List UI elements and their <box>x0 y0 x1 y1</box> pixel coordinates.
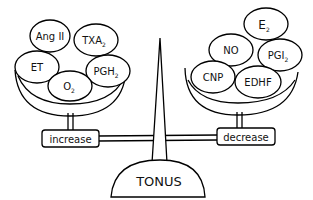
balance-needle <box>152 38 167 163</box>
factor-pgh2: PGH2 <box>86 55 130 87</box>
svg-text:ET: ET <box>31 62 44 73</box>
tonus-base: TONUS <box>111 160 205 197</box>
factor-o2: O2 <box>48 71 92 101</box>
factor-txa2: TXA2 <box>74 24 118 56</box>
factor-cnp: CNP <box>191 61 235 93</box>
factor-edhf: EDHF <box>235 66 281 98</box>
svg-text:NO: NO <box>223 45 238 56</box>
balance-diagram: TONUS increase decrease Ang II TXA2 ET <box>0 0 313 200</box>
increase-label: increase <box>49 134 91 145</box>
factor-ang-ii: Ang II <box>30 20 70 52</box>
right-pan: E2 NO PGI2 CNP EDHF <box>185 8 302 115</box>
factor-e2: E2 <box>244 8 288 40</box>
tonus-label: TONUS <box>135 174 182 189</box>
svg-text:CNP: CNP <box>203 72 224 83</box>
increase-box: increase <box>42 130 99 147</box>
svg-text:EDHF: EDHF <box>244 77 272 88</box>
decrease-box: decrease <box>217 128 275 145</box>
decrease-label: decrease <box>223 132 269 143</box>
svg-text:Ang II: Ang II <box>36 31 65 42</box>
left-pan: Ang II TXA2 ET PGH2 O2 <box>15 20 130 116</box>
